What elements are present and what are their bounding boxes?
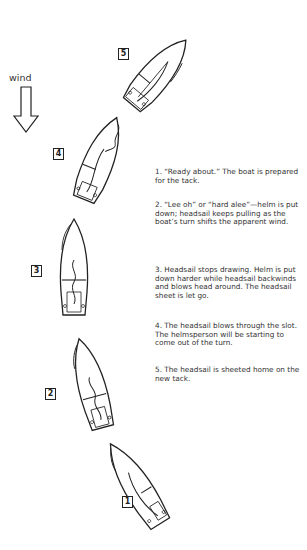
- boat-step-3: [54, 218, 94, 323]
- boat-step-5: [115, 32, 195, 122]
- wind-arrow-icon: [12, 86, 40, 134]
- step-label-1: 1: [122, 496, 133, 508]
- caption-step-5: 5. The headsail is sheeted home on the n…: [155, 366, 303, 383]
- caption-step-2: 2. “Lee oh” or “hard alee”—helm is put d…: [155, 201, 303, 227]
- step-label-3: 3: [31, 265, 42, 277]
- tacking-diagram: wind 5 4: [0, 0, 307, 550]
- boat-step-4: [68, 114, 128, 214]
- caption-step-1: 1. “Ready about.” The boat is prepared f…: [155, 168, 303, 185]
- step-label-5: 5: [118, 48, 129, 60]
- wind-label: wind: [9, 72, 31, 83]
- boat-step-1: [100, 438, 180, 538]
- caption-step-3: 3. Headsail stops drawing. Helm is put d…: [155, 266, 303, 300]
- step-label-2: 2: [45, 388, 56, 400]
- caption-step-4: 4. The headsail blows through the slot. …: [155, 322, 303, 348]
- step-label-4: 4: [53, 148, 64, 160]
- boat-step-2: [65, 335, 120, 440]
